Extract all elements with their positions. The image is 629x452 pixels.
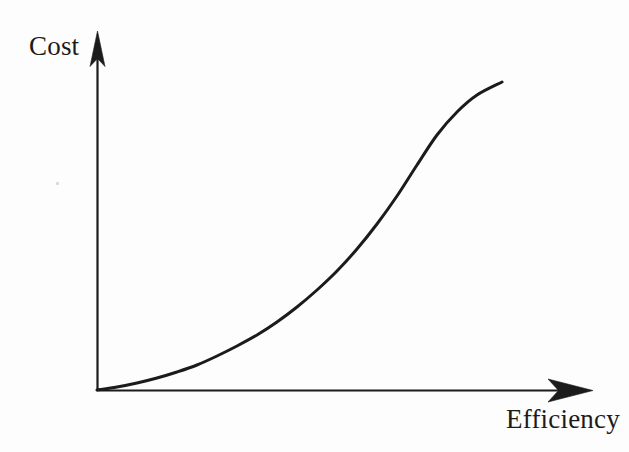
y-axis-label: Cost	[29, 31, 79, 61]
dust-speck	[56, 182, 59, 185]
cost-curve	[97, 82, 502, 390]
plot-svg	[0, 0, 629, 452]
chart-canvas: Cost Efficiency	[0, 0, 629, 452]
x-axis-label: Efficiency	[506, 404, 620, 434]
